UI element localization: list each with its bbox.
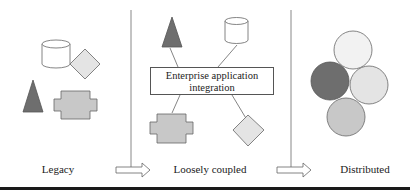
arrow-right-icon [116,163,150,177]
connector-line [218,45,237,67]
connector-line [232,95,247,120]
eai-hub-box: Enterprise application integration [150,67,274,95]
legacy-cylinder-icon [42,40,70,68]
distributed-node-bottom [327,98,365,136]
distributed-node-right [350,66,388,104]
legacy-triangle-icon [23,80,43,112]
panel-label-distributed: Distributed [340,163,390,175]
bottom-border [0,187,410,190]
coupled-cross-block-icon [150,114,193,143]
eai-hub-label-line2: integration [151,82,273,94]
diagram-canvas [0,0,410,190]
distributed-node-left [311,62,349,100]
distributed-node-top [334,31,372,69]
connector-line [172,95,180,113]
panel-label-legacy: Legacy [42,163,74,175]
coupled-diamond-icon [233,115,264,146]
coupled-cylinder-icon [225,18,248,44]
legacy-diamond-icon [70,49,100,79]
coupled-triangle-icon [162,17,182,47]
arrow-right-icon [277,163,311,177]
panel-label-loosely-coupled: Loosely coupled [173,163,246,175]
legacy-cross-block-icon [54,91,97,119]
eai-hub-label-line1: Enterprise application [151,70,273,82]
connector-line [170,48,178,67]
